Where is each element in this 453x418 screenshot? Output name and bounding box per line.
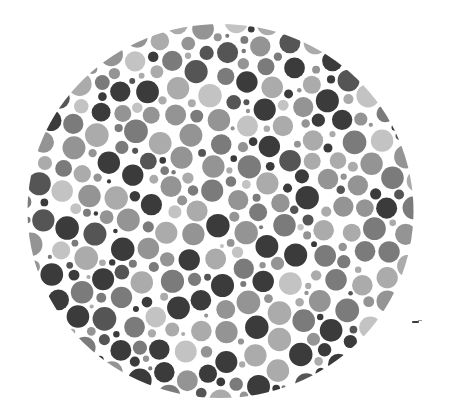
plate-dot	[249, 137, 258, 146]
plate-dot	[115, 124, 123, 132]
plate-dot	[167, 77, 189, 99]
plate-dot	[279, 272, 302, 295]
plate-dot	[98, 92, 107, 101]
plate-dot	[343, 94, 353, 104]
plate-dot	[90, 304, 94, 308]
plate-dot	[206, 214, 229, 237]
plate-dot	[27, 260, 40, 273]
plate-dot	[231, 126, 235, 130]
plate-dot	[230, 155, 237, 162]
plate-dot	[293, 97, 313, 117]
plate-dot	[327, 75, 335, 83]
plate-dot	[305, 283, 311, 289]
plate-dot	[284, 89, 293, 98]
plate-dot	[204, 314, 208, 318]
plate-dot	[313, 220, 334, 241]
plate-dot	[145, 307, 166, 328]
plate-dot	[71, 281, 94, 304]
plate-dot	[217, 68, 234, 85]
plate-dot	[312, 114, 325, 127]
plate-dot	[389, 220, 396, 227]
plate-dot	[236, 71, 257, 92]
plate-dot	[113, 331, 119, 337]
plate-dot	[124, 317, 145, 338]
plate-dot	[303, 76, 321, 94]
plate-dot	[294, 141, 301, 148]
plate-dot	[378, 241, 399, 262]
plate-dot	[278, 100, 289, 111]
plate-dot	[133, 306, 139, 312]
plate-dot	[83, 209, 91, 217]
plate-dot	[237, 116, 258, 137]
plate-dot	[320, 319, 343, 342]
margin-mark	[412, 321, 419, 323]
plate-dot	[150, 65, 163, 78]
plate-dot	[187, 200, 208, 221]
plate-dot	[188, 99, 196, 107]
plate-dot	[377, 290, 399, 312]
plate-dot	[192, 18, 214, 40]
plate-dot	[253, 194, 261, 202]
plate-dot	[167, 14, 188, 35]
plate-dot	[40, 199, 48, 207]
plate-dot	[74, 165, 91, 182]
plate-dot	[292, 309, 315, 332]
plate-dot	[165, 322, 179, 336]
plate-dot	[321, 206, 331, 216]
plate-dot	[230, 377, 243, 390]
plate-dot	[129, 78, 135, 84]
plate-dot	[182, 223, 204, 245]
plate-dot	[49, 88, 70, 109]
plate-dot	[74, 246, 98, 270]
plate-dot	[266, 162, 275, 171]
plate-dot	[51, 180, 73, 202]
plate-dot	[83, 223, 106, 246]
plate-dot	[86, 275, 90, 279]
plate-dot	[282, 385, 286, 389]
plate-dot	[114, 105, 131, 122]
plate-dot	[87, 64, 97, 74]
plate-dot	[40, 110, 61, 131]
plate-dot	[323, 143, 332, 152]
plate-dot	[160, 293, 168, 301]
plate-dot	[325, 269, 346, 290]
plate-dot	[377, 267, 398, 288]
plate-dot	[69, 329, 75, 335]
plate-dot	[209, 389, 232, 412]
plate-dot	[181, 37, 195, 51]
plate-dot	[130, 191, 141, 202]
plate-dot	[115, 265, 130, 280]
plate-dot	[255, 235, 278, 258]
plate-dot	[160, 176, 181, 197]
plate-dot	[252, 271, 273, 292]
plate-dot	[198, 149, 206, 157]
plate-dot	[196, 388, 207, 399]
plate-dot	[69, 270, 80, 281]
plate-dot	[143, 107, 160, 124]
plate-dot	[158, 385, 181, 408]
plate-dot	[110, 81, 130, 101]
plate-dot	[148, 366, 152, 370]
plate-dot	[92, 103, 111, 122]
plate-dot	[297, 88, 302, 93]
plate-dot	[271, 194, 290, 213]
plate-dot	[55, 216, 79, 240]
plate-dot	[268, 301, 292, 325]
plate-dot	[32, 209, 54, 231]
plate-dot	[131, 271, 153, 293]
plate-dot	[96, 293, 106, 303]
plate-dot	[336, 185, 345, 194]
plate-dot	[259, 225, 263, 229]
plate-dot	[154, 362, 175, 383]
plate-dot	[238, 155, 261, 178]
plate-dot	[339, 243, 347, 251]
plate-dot	[371, 129, 393, 151]
plate-dot	[66, 262, 73, 269]
plate-dot	[99, 334, 110, 345]
plate-dot	[272, 385, 280, 393]
plate-dot	[115, 141, 128, 154]
plate-dot	[341, 174, 347, 180]
plate-dot	[148, 52, 159, 63]
plate-dot	[330, 152, 347, 169]
plate-dot	[124, 119, 148, 143]
